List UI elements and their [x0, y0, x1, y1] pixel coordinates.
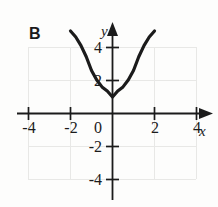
x-axis	[17, 108, 213, 119]
x-tick-label-0: 0	[91, 120, 105, 136]
x-tick-label--2: -2	[60, 120, 82, 136]
y-axis	[107, 22, 118, 200]
panel-label: B	[29, 26, 41, 42]
x-tick-label-4: 4	[190, 120, 204, 136]
y-tick-label-4: 4	[82, 40, 102, 56]
y-tick-label-2: 2	[82, 73, 102, 89]
y-tick-label--2: -2	[74, 139, 102, 155]
y-axis-arrowhead	[107, 22, 118, 36]
x-axis-arrowhead	[199, 108, 213, 119]
x-tick-label--4: -4	[18, 120, 40, 136]
x-tick-label-2: 2	[148, 120, 162, 136]
y-axis-label: y	[101, 24, 108, 39]
figure-container: B y x -4 -2 0 2 4 4 2 -2 -4	[0, 0, 218, 207]
y-tick-label--4: -4	[74, 172, 102, 188]
